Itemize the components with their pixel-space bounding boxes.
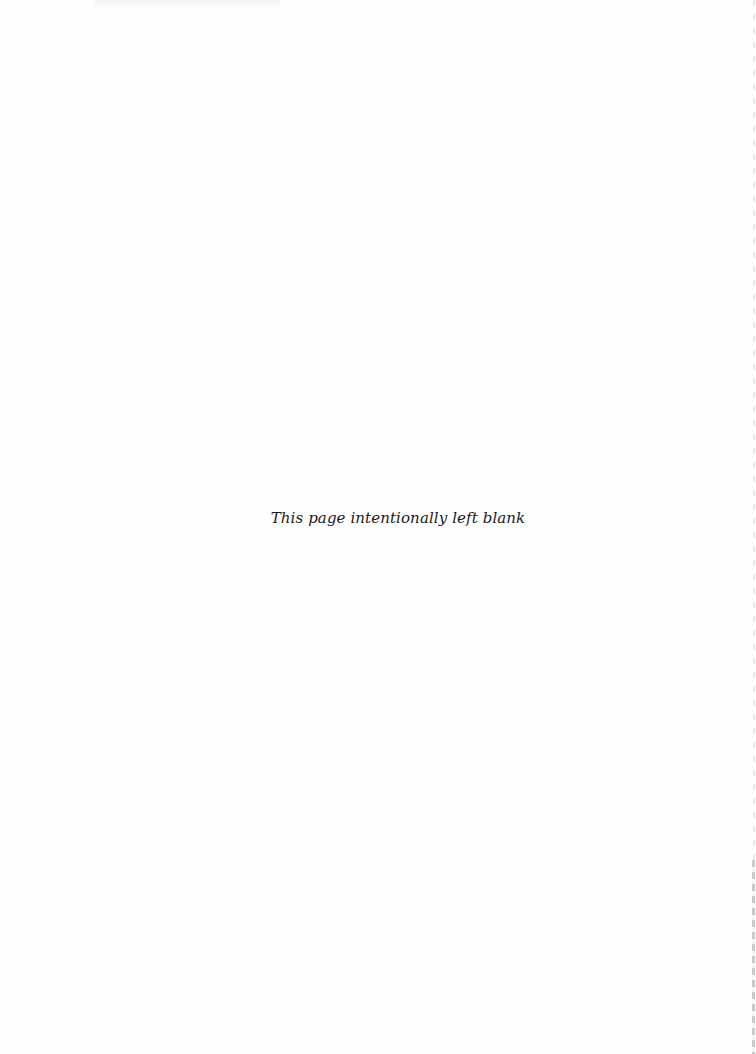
blank-page-notice: This page intentionally left blank — [0, 509, 756, 527]
page-edge-shadow-lower — [752, 860, 755, 1054]
show-through-text — [95, 0, 280, 8]
document-page: This page intentionally left blank — [0, 0, 756, 1054]
